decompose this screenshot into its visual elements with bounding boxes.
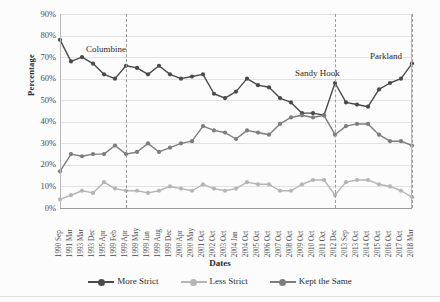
data-point <box>256 182 260 186</box>
data-point <box>190 74 194 78</box>
data-point <box>212 187 216 191</box>
data-point <box>190 189 194 193</box>
data-point <box>344 124 348 128</box>
x-axis-tick-label: 2002 Oct <box>209 230 216 257</box>
data-point <box>289 189 293 193</box>
x-axis-tick-label: 1995 Apr <box>99 230 106 257</box>
legend-label: More Strict <box>117 277 158 286</box>
x-axis-tick-label: 1999 Aug <box>154 229 161 257</box>
data-point <box>146 191 150 195</box>
data-point <box>58 197 62 201</box>
data-point <box>201 124 205 128</box>
data-point <box>91 61 95 65</box>
data-point <box>234 137 238 141</box>
x-axis-tick-label: 2009 Oct <box>297 230 304 257</box>
event-label: Parkland <box>370 51 402 61</box>
gun-policy-opinion-line-chart: Percentage 0%10%20%30%40%50%60%70%80%90%… <box>0 0 440 302</box>
x-axis-tick-label: 2000 May <box>187 228 194 257</box>
x-axis-tick-label: 1999 Feb <box>110 230 117 257</box>
x-axis-tick-label: 2000 Apr <box>176 230 183 257</box>
x-axis-tick-label: 2017 Oct <box>396 230 403 257</box>
data-point <box>388 81 392 85</box>
x-axis-tick-label: 2001 Oct <box>198 230 205 257</box>
data-point <box>234 187 238 191</box>
x-axis-tick-label: 2008 Oct <box>286 230 293 257</box>
legend-item-less-strict[interactable]: Less Strict <box>181 277 248 286</box>
data-point <box>179 141 183 145</box>
event-marker-line <box>335 14 336 208</box>
data-point <box>102 152 106 156</box>
x-axis-tick-label: 2007 Oct <box>275 230 282 257</box>
x-axis-tick-label: 2018 Mar <box>407 229 414 257</box>
data-point <box>256 83 260 87</box>
data-point <box>267 133 271 137</box>
y-axis-tick-label: 80% <box>26 31 56 40</box>
data-point <box>344 100 348 104</box>
x-axis-tick-label: 2005 Oct <box>253 230 260 257</box>
data-point <box>300 113 304 117</box>
data-point <box>267 182 271 186</box>
data-point <box>69 59 73 63</box>
legend-item-kept-the-same[interactable]: Kept the Same <box>270 277 352 286</box>
data-point <box>278 96 282 100</box>
data-point <box>146 141 150 145</box>
data-point <box>355 178 359 182</box>
x-axis-tick-label: 2013 Sep <box>341 230 348 257</box>
data-point <box>289 100 293 104</box>
legend-label: Kept the Same <box>299 277 352 286</box>
data-point <box>223 96 227 100</box>
y-axis-tick-label: 90% <box>26 10 56 19</box>
x-axis-tick-label: 2013 Oct <box>352 230 359 257</box>
data-point <box>311 111 315 115</box>
data-point <box>388 139 392 143</box>
data-point <box>223 189 227 193</box>
data-point <box>201 72 205 76</box>
chart-legend: More StrictLess StrictKept the Same <box>0 277 440 286</box>
data-point <box>344 180 348 184</box>
legend-label: Less Strict <box>210 277 248 286</box>
x-axis-tick-label: 2014 Oct <box>363 230 370 257</box>
data-point <box>157 150 161 154</box>
y-axis-tick-label: 10% <box>26 182 56 191</box>
footer-divider <box>0 296 440 297</box>
data-point <box>135 189 139 193</box>
data-point <box>399 189 403 193</box>
series-line <box>60 115 412 171</box>
data-point <box>278 189 282 193</box>
data-point <box>168 72 172 76</box>
event-marker-line <box>126 14 127 208</box>
data-point <box>267 85 271 89</box>
data-point <box>311 178 315 182</box>
x-axis-tick-label: 2015 Oct <box>374 230 381 257</box>
data-point <box>355 122 359 126</box>
x-axis-tick-label: 2010 Oct <box>308 230 315 257</box>
series-less-strict <box>58 178 414 202</box>
data-point <box>168 146 172 150</box>
data-point <box>102 180 106 184</box>
data-point <box>399 77 403 81</box>
y-axis-tick-label: 20% <box>26 160 56 169</box>
x-axis-tick-label: 1999 May <box>132 228 139 257</box>
y-axis-tick-labels: 0%10%20%30%40%50%60%70%80%90% <box>22 0 56 302</box>
data-point <box>91 152 95 156</box>
x-axis-tick-label: 2011 Oct <box>319 231 326 257</box>
data-point <box>300 182 304 186</box>
data-point <box>366 122 370 126</box>
y-axis-tick-label: 60% <box>26 74 56 83</box>
y-axis-tick-label: 50% <box>26 96 56 105</box>
data-point <box>58 38 62 42</box>
data-point <box>80 55 84 59</box>
data-point <box>179 77 183 81</box>
data-point <box>256 130 260 134</box>
data-point <box>146 72 150 76</box>
x-axis-tick-label: 1999 Jun <box>143 231 150 257</box>
data-point <box>399 139 403 143</box>
x-axis-tick-label: 1999 Dec <box>165 229 172 257</box>
data-point <box>223 130 227 134</box>
data-point <box>135 66 139 70</box>
legend-item-more-strict[interactable]: More Strict <box>88 277 158 286</box>
data-point <box>212 92 216 96</box>
data-point <box>366 105 370 109</box>
x-axis-tick-label: 2012 Dec <box>330 229 337 257</box>
event-label: Columbine <box>86 44 126 54</box>
